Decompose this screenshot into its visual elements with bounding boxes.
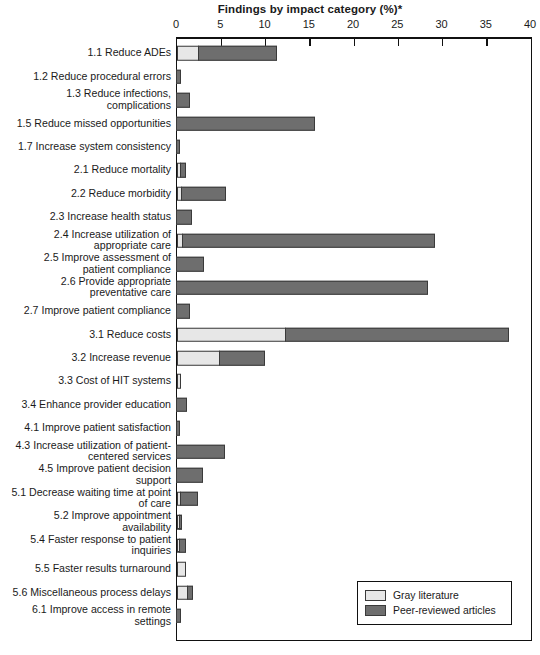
bar-segment-gray-literature <box>177 327 286 342</box>
bar-segment-peer-reviewed <box>285 327 509 342</box>
bar-segment-peer-reviewed <box>198 46 277 61</box>
category-label: 1.1 Reduce ADEs <box>0 47 171 59</box>
bar-segment-peer-reviewed <box>179 538 186 553</box>
category-label: 2.3 Increase health status <box>0 212 171 224</box>
stacked-bar <box>177 491 198 506</box>
chart-row: 2.6 Provide appropriate preventative car… <box>0 276 540 299</box>
category-label: 2.5 Improve assessment of patient compli… <box>0 253 171 276</box>
chart-row: 1.5 Reduce missed opportunities <box>0 112 540 135</box>
category-label: 4.3 Increase utilization of patient- cen… <box>0 440 171 463</box>
bar-segment-gray-literature <box>177 46 199 61</box>
bar-segment-peer-reviewed <box>176 445 225 460</box>
chart-row: 1.2 Reduce procedural errors <box>0 65 540 88</box>
category-label: 5.1 Decrease waiting time at point of ca… <box>0 487 171 510</box>
chart-row: 1.1 Reduce ADEs <box>0 42 540 65</box>
chart-legend: Gray literaturePeer-reviewed articles <box>357 581 512 625</box>
bar-segment-peer-reviewed <box>187 585 193 600</box>
chart-row: 4.3 Increase utilization of patient- cen… <box>0 440 540 463</box>
category-label: 2.4 Increase utilization of appropriate … <box>0 229 171 252</box>
category-label: 5.4 Faster response to patient inquiries <box>0 534 171 557</box>
bar-segment-peer-reviewed <box>176 93 190 108</box>
bar-segment-peer-reviewed <box>180 491 198 506</box>
category-label: 5.5 Faster results turnaround <box>0 563 171 575</box>
bar-segment-peer-reviewed <box>176 140 180 155</box>
bar-segment-gray-literature <box>177 562 186 577</box>
chart-row: 5.5 Faster results turnaround <box>0 557 540 580</box>
category-label: 6.1 Improve access in remote settings <box>0 604 171 627</box>
category-label: 3.1 Reduce costs <box>0 329 171 341</box>
chart-row: 2.4 Increase utilization of appropriate … <box>0 229 540 252</box>
bar-segment-gray-literature <box>177 374 181 389</box>
x-tick-label: 15 <box>303 18 315 30</box>
category-label: 4.1 Improve patient satisfaction <box>0 423 171 435</box>
category-label: 3.4 Enhance provider education <box>0 399 171 411</box>
stacked-bar <box>177 210 192 225</box>
stacked-bar <box>177 46 277 61</box>
stacked-bar <box>177 187 226 202</box>
category-label: 5.6 Miscellaneous process delays <box>0 587 171 599</box>
bar-segment-peer-reviewed <box>176 257 204 272</box>
x-tick-label: 5 <box>217 18 223 30</box>
legend-label: Gray literature <box>393 590 459 601</box>
stacked-bar <box>177 234 435 249</box>
chart-row: 4.1 Improve patient satisfaction <box>0 417 540 440</box>
chart-row: 2.5 Improve assessment of patient compli… <box>0 253 540 276</box>
legend-item: Peer-reviewed articles <box>365 603 504 617</box>
category-label: 2.6 Provide appropriate preventative car… <box>0 276 171 299</box>
legend-label: Peer-reviewed articles <box>393 605 496 616</box>
stacked-bar <box>177 609 181 624</box>
legend-swatch <box>365 605 386 616</box>
bar-segment-peer-reviewed <box>176 304 190 319</box>
x-tick-label: 0 <box>173 18 179 30</box>
bar-segment-peer-reviewed <box>176 69 181 84</box>
category-label: 3.3 Cost of HIT systems <box>0 376 171 388</box>
category-label: 2.2 Reduce morbidity <box>0 188 171 200</box>
category-label: 2.7 Improve patient compliance <box>0 305 171 317</box>
bar-segment-peer-reviewed <box>176 609 181 624</box>
chart-row: 3.4 Enhance provider education <box>0 393 540 416</box>
category-label: 2.1 Reduce mortality <box>0 165 171 177</box>
stacked-bar <box>177 538 186 553</box>
category-label: 1.7 Increase system consistency <box>0 141 171 153</box>
stacked-bar <box>177 327 509 342</box>
bar-segment-peer-reviewed <box>176 468 203 483</box>
stacked-bar <box>177 116 315 131</box>
bar-segment-peer-reviewed <box>181 187 225 202</box>
stacked-bar <box>177 421 180 436</box>
chart-row: 5.4 Faster response to patient inquiries <box>0 534 540 557</box>
stacked-bar <box>177 280 428 295</box>
chart-row: 3.2 Increase revenue <box>0 346 540 369</box>
bar-segment-peer-reviewed <box>176 398 187 413</box>
stacked-bar <box>177 163 186 178</box>
chart-title: Findings by impact category (%)* <box>0 3 540 15</box>
stacked-bar <box>177 398 187 413</box>
bar-segment-gray-literature <box>177 351 220 366</box>
stacked-bar <box>177 374 181 389</box>
bar-segment-peer-reviewed <box>180 163 185 178</box>
x-tick-label: 20 <box>347 18 359 30</box>
bar-segment-peer-reviewed <box>176 280 428 295</box>
bar-segment-peer-reviewed <box>219 351 265 366</box>
category-label: 3.2 Increase revenue <box>0 352 171 364</box>
category-label: 1.5 Reduce missed opportunities <box>0 118 171 130</box>
stacked-bar <box>177 304 190 319</box>
category-label: 1.3 Reduce infections, complications <box>0 88 171 111</box>
stacked-bar <box>177 562 186 577</box>
chart-row: 3.3 Cost of HIT systems <box>0 370 540 393</box>
stacked-bar <box>177 515 182 530</box>
stacked-bar <box>177 585 193 600</box>
x-tick-label: 40 <box>524 18 536 30</box>
chart-row: 4.5 Improve patient decision support <box>0 464 540 487</box>
category-label: 5.2 Improve appointment availability <box>0 511 171 534</box>
chart-row: 3.1 Reduce costs <box>0 323 540 346</box>
chart-row: 1.7 Increase system consistency <box>0 135 540 158</box>
stacked-bar <box>177 140 180 155</box>
chart-row: 1.3 Reduce infections, complications <box>0 88 540 111</box>
x-tick-label: 30 <box>435 18 447 30</box>
chart-figure: Findings by impact category (%)* 0510152… <box>0 0 540 655</box>
stacked-bar <box>177 468 203 483</box>
x-tick-label: 35 <box>480 18 492 30</box>
bar-segment-peer-reviewed <box>179 515 183 530</box>
legend-swatch <box>365 590 386 601</box>
category-label: 4.5 Improve patient decision support <box>0 464 171 487</box>
